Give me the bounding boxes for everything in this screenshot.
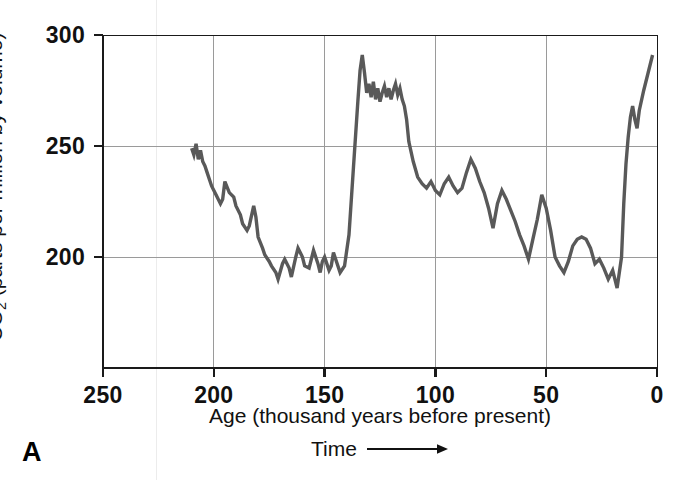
y-axis-title-text-rest: (parts per million by volume) [0, 32, 6, 302]
co2-series-line [103, 35, 657, 368]
y-tick-label-200: 200 [15, 244, 85, 271]
y-tick-label-300: 300 [15, 22, 85, 49]
y-axis-title-text-co: CO [0, 310, 6, 342]
y-tick-label-250: 250 [15, 133, 85, 160]
panel-letter: A [22, 437, 42, 468]
y-axis-title-subscript-2: 2 [0, 302, 9, 310]
time-annotation: Time [103, 437, 657, 461]
y-axis-title: CO2 (parts per million by volume) [0, 0, 7, 467]
series-line-0 [192, 55, 653, 288]
plot-area: 300250200250200150100500 [103, 35, 657, 368]
x-axis-title: Age (thousand years before present) [103, 404, 657, 428]
time-annotation-label: Time [311, 437, 357, 461]
right-arrow-icon [367, 442, 449, 456]
figure-panel-a: 300250200250200150100500 CO2 (parts per … [0, 0, 685, 480]
